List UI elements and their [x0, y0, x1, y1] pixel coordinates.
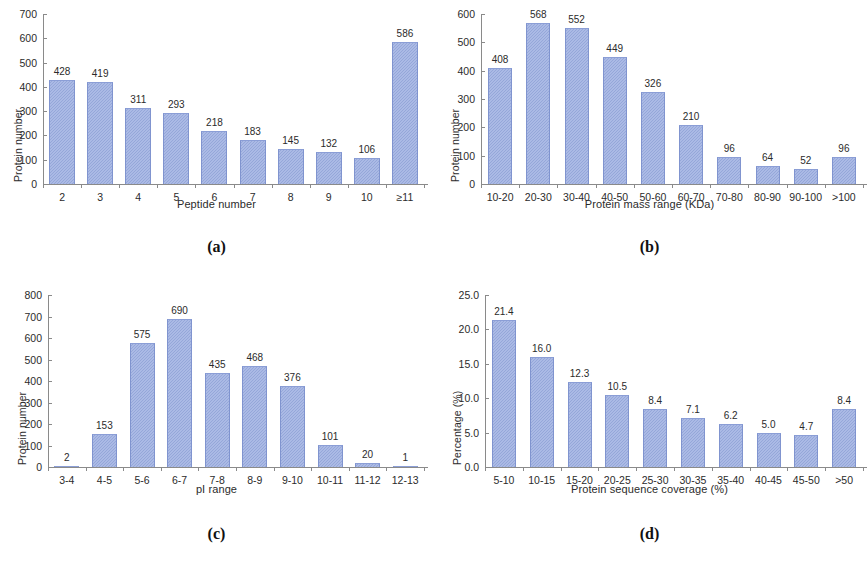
- bar: [605, 395, 629, 467]
- y-axis-tick-label: 15.0: [445, 358, 479, 370]
- y-axis-tick: [486, 329, 489, 330]
- bar-value-label: 16.0: [532, 343, 551, 354]
- y-axis-tick: [482, 156, 485, 157]
- bar-value-label: 183: [244, 126, 261, 137]
- y-axis-tick-label: 400: [441, 65, 475, 77]
- bar-value-label: 132: [320, 138, 337, 149]
- x-axis-tick: [863, 185, 864, 188]
- bar-value-label: 101: [322, 431, 339, 442]
- y-axis-tick-label: 500: [3, 57, 37, 69]
- plot-area-b: 0100200300400500600Protein number40810-2…: [433, 0, 866, 200]
- x-axis-tick: [787, 185, 788, 188]
- y-axis-label: Percentage (%): [451, 391, 463, 465]
- x-axis-tick: [519, 185, 520, 188]
- y-axis-tick-label: 800: [8, 289, 42, 301]
- bar: [641, 92, 665, 184]
- y-axis-tick: [49, 338, 52, 339]
- x-axis-label-a: Peptide number: [0, 198, 433, 210]
- bar-value-label: 7.1: [686, 404, 700, 415]
- bar-value-label: 568: [530, 9, 547, 20]
- bar-value-label: 468: [246, 352, 263, 363]
- bar: [530, 357, 554, 467]
- y-axis-tick-label: 600: [8, 332, 42, 344]
- x-axis-tick: [195, 185, 196, 188]
- y-axis-tick: [49, 403, 52, 404]
- plot-area-a: 0100200300400500600700Protein number4282…: [0, 0, 433, 200]
- bar-value-label: 210: [683, 111, 700, 122]
- bar: [679, 125, 703, 185]
- bar: [392, 42, 418, 184]
- y-axis-tick: [486, 433, 489, 434]
- x-axis-line: [481, 184, 867, 185]
- y-axis-tick: [49, 467, 52, 468]
- bar: [278, 149, 304, 184]
- panel-label-c: (c): [0, 525, 433, 543]
- panel-b: 0100200300400500600Protein number40810-2…: [433, 0, 866, 281]
- bar-value-label: 153: [96, 420, 113, 431]
- y-axis-tick: [482, 42, 485, 43]
- bar-value-label: 575: [134, 329, 151, 340]
- bar: [354, 158, 380, 184]
- y-axis-tick: [49, 317, 52, 318]
- x-axis-tick: [634, 185, 635, 188]
- bar: [92, 434, 117, 467]
- panel-c: 0100200300400500600700800Protein number2…: [0, 281, 433, 563]
- plot-area-c: 0100200300400500600700800Protein number2…: [0, 281, 433, 481]
- x-axis-tick: [523, 468, 524, 471]
- bar: [54, 466, 79, 467]
- bar-value-label: 449: [606, 43, 623, 54]
- x-axis-tick: [561, 468, 562, 471]
- y-axis-tick-label: 700: [8, 311, 42, 323]
- y-axis-tick-label: 700: [3, 8, 37, 20]
- x-axis-tick: [672, 185, 673, 188]
- y-axis-tick: [44, 111, 47, 112]
- y-axis-tick: [49, 381, 52, 382]
- bar-value-label: 2: [64, 452, 70, 463]
- bar-value-label: 552: [568, 14, 585, 25]
- y-axis-tick: [486, 295, 489, 296]
- y-axis-tick: [49, 295, 52, 296]
- bar-value-label: 145: [282, 135, 299, 146]
- bar: [125, 108, 151, 184]
- bar: [242, 366, 267, 467]
- y-axis-tick: [49, 446, 52, 447]
- y-axis-tick: [486, 467, 489, 468]
- y-axis-tick: [44, 87, 47, 88]
- bar: [240, 140, 266, 184]
- bar: [280, 386, 305, 467]
- x-axis-tick: [43, 185, 44, 188]
- y-axis-label: Protein number: [16, 392, 28, 465]
- bar: [526, 23, 550, 184]
- bar-value-label: 52: [800, 155, 811, 166]
- y-axis-tick-label: 500: [8, 354, 42, 366]
- y-axis-tick: [44, 14, 47, 15]
- bar-value-label: 1: [402, 452, 408, 463]
- x-axis-label-b: Protein mass range (KDa): [433, 198, 866, 210]
- y-axis-tick: [49, 360, 52, 361]
- x-axis-tick: [48, 468, 49, 471]
- x-axis-tick: [557, 185, 558, 188]
- bar: [794, 169, 818, 184]
- bar: [492, 320, 516, 467]
- x-axis-tick: [198, 468, 199, 471]
- bar: [316, 152, 342, 184]
- x-axis-label-d: Protein sequence coverage (%): [433, 483, 866, 495]
- bar: [603, 57, 627, 184]
- bar: [87, 82, 113, 184]
- bar: [355, 463, 380, 467]
- bar-value-label: 428: [54, 66, 71, 77]
- plot-area-d: 0.05.010.015.020.025.0Percentage (%)21.4…: [433, 281, 866, 481]
- x-axis-tick: [349, 468, 350, 471]
- x-axis-tick: [123, 468, 124, 471]
- bar: [681, 418, 705, 467]
- x-axis-tick: [712, 468, 713, 471]
- y-axis-tick-label: 400: [3, 81, 37, 93]
- x-axis-tick: [234, 185, 235, 188]
- bar: [568, 382, 592, 467]
- x-axis-line: [485, 467, 867, 468]
- bar-value-label: 12.3: [570, 368, 589, 379]
- x-axis-tick: [598, 468, 599, 471]
- bar-value-label: 4.7: [799, 421, 813, 432]
- bar-value-label: 326: [645, 78, 662, 89]
- bar: [757, 433, 781, 467]
